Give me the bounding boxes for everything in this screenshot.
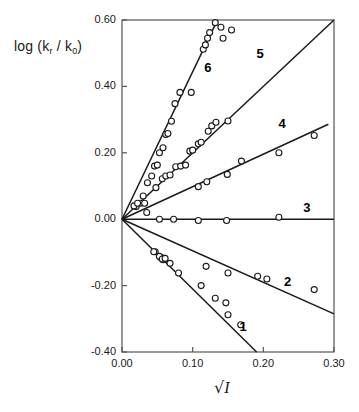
data-point <box>160 145 166 151</box>
data-point <box>213 119 219 125</box>
markers-6 <box>131 20 235 209</box>
data-point <box>224 218 230 224</box>
data-point <box>168 118 174 124</box>
data-point <box>165 131 171 137</box>
x-tick-label: 0.30 <box>311 357 357 369</box>
data-point <box>183 162 189 168</box>
data-point <box>225 118 231 124</box>
x-tick-label: 0.20 <box>240 357 286 369</box>
x-tick-label: 0.10 <box>170 357 216 369</box>
y-tick-label: 0.20 <box>74 146 116 158</box>
data-point <box>144 180 150 186</box>
data-point <box>167 260 173 266</box>
data-point <box>224 171 230 177</box>
y-tick-label: 0.00 <box>74 212 116 224</box>
data-point <box>144 210 150 216</box>
data-point <box>276 150 282 156</box>
fit-line-1 <box>122 219 257 352</box>
data-point <box>172 101 178 107</box>
series-1 <box>122 219 257 352</box>
data-point <box>153 185 159 191</box>
y-tick-label: 0.40 <box>74 79 116 91</box>
data-point <box>225 270 231 276</box>
fit-line-2 <box>122 219 334 314</box>
series-label-4: 4 <box>278 116 285 131</box>
data-point <box>223 300 229 306</box>
data-point <box>151 249 157 255</box>
data-point <box>140 193 146 199</box>
data-point <box>218 24 224 30</box>
series-label-2: 2 <box>284 274 291 289</box>
data-point <box>311 133 317 139</box>
data-point <box>198 283 204 289</box>
series-label-5: 5 <box>257 46 264 61</box>
data-point <box>177 89 183 95</box>
x-tick-label: 0.00 <box>99 357 145 369</box>
data-point <box>171 216 177 222</box>
data-point <box>276 214 282 220</box>
data-point <box>229 27 235 33</box>
data-point <box>190 147 196 153</box>
data-point <box>188 89 194 95</box>
data-point <box>311 287 317 293</box>
data-point <box>212 20 218 26</box>
data-point <box>176 270 182 276</box>
data-point <box>198 139 204 145</box>
y-tick-label: 0.60 <box>74 13 116 25</box>
data-point <box>238 158 244 164</box>
data-point <box>142 200 148 206</box>
data-point <box>195 184 201 190</box>
data-point <box>202 42 208 48</box>
data-point <box>154 162 160 168</box>
data-point <box>225 312 231 318</box>
series-label-3: 3 <box>303 200 310 215</box>
data-point <box>149 173 155 179</box>
data-point <box>207 30 213 36</box>
data-point <box>156 216 162 222</box>
data-point <box>162 255 168 261</box>
y-tick-label: -0.20 <box>74 279 116 291</box>
data-point <box>135 200 141 206</box>
data-point <box>255 273 261 279</box>
data-point <box>167 172 173 178</box>
data-point <box>203 263 209 269</box>
series-2 <box>122 219 334 314</box>
data-point <box>195 218 201 224</box>
data-point <box>212 295 218 301</box>
chart-figure: log (kr / k0) √I -0.40-0.200.000.200.400… <box>0 0 359 412</box>
series-label-6: 6 <box>204 60 211 75</box>
data-point <box>204 179 210 185</box>
series-label-1: 1 <box>240 319 247 334</box>
y-tick-label: -0.40 <box>74 345 116 357</box>
data-point <box>220 35 226 41</box>
markers-2 <box>151 249 317 293</box>
data-point <box>264 276 270 282</box>
